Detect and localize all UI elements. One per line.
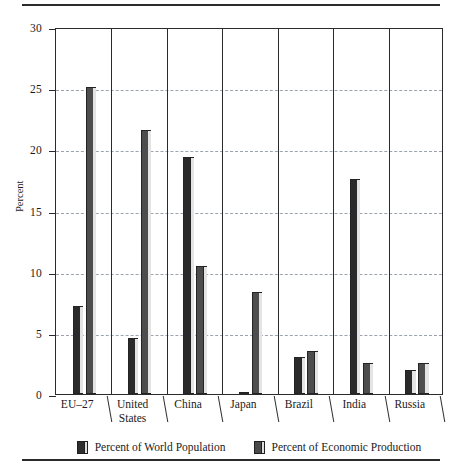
x-tick-label-line: China — [174, 398, 201, 412]
bar-highlight — [135, 338, 138, 394]
y-tick-label: 15 — [30, 206, 42, 218]
bars-layer — [56, 29, 442, 394]
x-tick-label: Russia — [394, 398, 425, 412]
legend-label: Percent of World Population — [95, 441, 226, 453]
y-tick-mark — [49, 213, 56, 214]
chart-figure: Percent 051015202530 EU–27UnitedStatesCh… — [0, 0, 461, 468]
y-tick-label: 20 — [30, 144, 42, 156]
x-tick-label-line: States — [117, 412, 148, 426]
bar — [363, 363, 375, 394]
bottom-rule — [22, 459, 440, 461]
bar-highlight — [370, 363, 373, 394]
x-tick-label: Japan — [230, 398, 256, 412]
bar — [86, 87, 98, 394]
y-tick-mark — [49, 151, 56, 152]
bar — [239, 392, 251, 394]
bar-highlight — [80, 306, 83, 394]
x-tick-label-line: Russia — [394, 398, 425, 412]
x-tick-label: EU–27 — [61, 398, 94, 412]
bar-highlight — [191, 157, 194, 394]
y-tick-mark — [49, 396, 56, 397]
bar — [252, 292, 264, 394]
bar-highlight — [302, 357, 305, 394]
x-axis-labels: EU–27UnitedStatesChinaJapanBrazilIndiaRu… — [55, 398, 443, 440]
y-tick-mark — [49, 29, 56, 30]
bar — [405, 370, 417, 394]
bar — [183, 157, 195, 394]
x-tick-label-line: Japan — [230, 398, 256, 412]
plot-area — [55, 28, 443, 395]
bar — [350, 179, 362, 394]
legend-label: Percent of Economic Production — [272, 441, 422, 453]
bar-highlight — [148, 130, 151, 394]
bar — [294, 357, 306, 394]
x-tick-label: UnitedStates — [117, 398, 148, 425]
y-tick-label: 25 — [30, 83, 42, 95]
y-tick-label: 0 — [36, 389, 42, 401]
bar-highlight — [204, 266, 207, 394]
y-tick-mark — [49, 335, 56, 336]
bar — [307, 351, 319, 394]
y-tick-label: 10 — [30, 267, 42, 279]
x-tick-label: Brazil — [285, 398, 313, 412]
bar — [196, 266, 208, 394]
legend-item[interactable]: Percent of Economic Production — [254, 441, 422, 454]
legend-item[interactable]: Percent of World Population — [77, 441, 226, 454]
bar — [418, 363, 430, 394]
bar — [128, 338, 140, 394]
legend-swatch-icon — [77, 441, 89, 454]
x-tick-label: India — [342, 398, 366, 412]
y-axis-labels: 051015202530 — [0, 28, 51, 395]
y-tick-label: 5 — [36, 328, 42, 340]
bar-highlight — [425, 363, 428, 394]
bar-highlight — [246, 392, 249, 394]
x-tick-label-line: Brazil — [285, 398, 313, 412]
x-tick-label-line: EU–27 — [61, 398, 94, 412]
bar-highlight — [412, 370, 415, 394]
y-tick-mark — [49, 274, 56, 275]
bar-highlight — [93, 87, 96, 394]
legend-swatch-highlight — [84, 441, 88, 454]
legend-swatch-highlight — [261, 441, 265, 454]
bar-highlight — [259, 292, 262, 394]
x-tick-label: China — [174, 398, 201, 412]
legend-swatch-icon — [254, 441, 266, 454]
bar — [141, 130, 153, 394]
y-tick-mark — [49, 90, 56, 91]
bar — [73, 306, 85, 394]
top-rule — [22, 4, 440, 6]
x-tick-label-line: India — [342, 398, 366, 412]
y-tick-label: 30 — [30, 22, 42, 34]
chart-legend: Percent of World PopulationPercent of Ec… — [55, 438, 443, 456]
x-tick-label-line: United — [117, 398, 148, 412]
bar-highlight — [315, 351, 318, 394]
bar-highlight — [357, 179, 360, 394]
